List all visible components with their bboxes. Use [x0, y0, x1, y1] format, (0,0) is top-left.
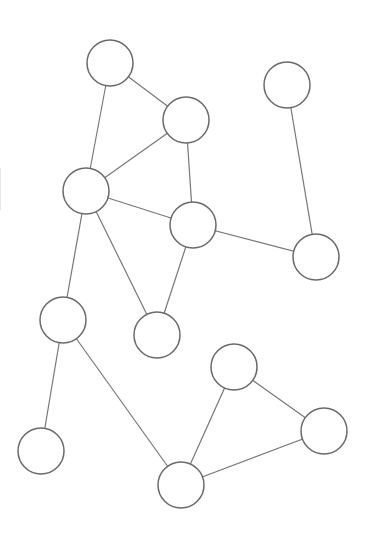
edge-n4-n8: [86, 191, 157, 335]
graph-node-n9: [211, 344, 257, 390]
graph-diagram: [0, 0, 368, 550]
nodes-layer: [18, 40, 347, 508]
graph-canvas: [0, 0, 368, 550]
graph-node-n1: [87, 40, 133, 86]
graph-node-n3: [163, 97, 209, 143]
graph-node-n7: [40, 297, 86, 343]
graph-node-n4: [63, 168, 109, 214]
graph-node-n2: [264, 62, 310, 108]
graph-node-n6: [293, 234, 339, 280]
graph-node-n10: [301, 408, 347, 454]
graph-node-n8: [134, 312, 180, 358]
graph-node-n12: [158, 462, 204, 508]
graph-node-n5: [170, 202, 216, 248]
edge-n2-n6: [287, 85, 316, 257]
graph-node-n11: [18, 428, 64, 474]
